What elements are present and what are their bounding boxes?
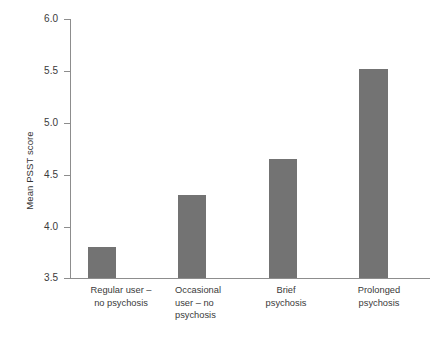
x-axis-category-labels: Regular user – no psychosis Occasional u… (71, 284, 437, 341)
x-axis-line (70, 278, 430, 279)
x-axis-category-label: Prolonged psychosis (329, 284, 429, 309)
y-axis-tick-label: 6.0 (22, 14, 58, 24)
y-axis-tick-group: 6.0 5.5 5.0 4.5 4.0 3.5 (0, 0, 70, 341)
x-axis-category-label: Brief psychosis (243, 284, 329, 309)
bar (178, 195, 206, 278)
y-axis-tick-label: 5.0 (22, 118, 58, 128)
x-axis-category-label: Occasional user – no psychosis (175, 284, 245, 322)
x-axis-category-label: Regular user – no psychosis (61, 284, 181, 309)
y-axis-tick-label: 4.5 (22, 170, 58, 180)
bar (359, 69, 388, 278)
plot-area (71, 19, 430, 278)
y-axis-tick-label: 5.5 (22, 66, 58, 76)
bar (269, 159, 297, 278)
bar-chart-figure: Mean PSST score 6.0 5.5 5.0 4.5 4.0 3.5 (0, 0, 437, 341)
y-axis-tick-label: 4.0 (22, 222, 58, 232)
y-axis-tick-label: 3.5 (22, 273, 58, 283)
bar (88, 247, 116, 278)
